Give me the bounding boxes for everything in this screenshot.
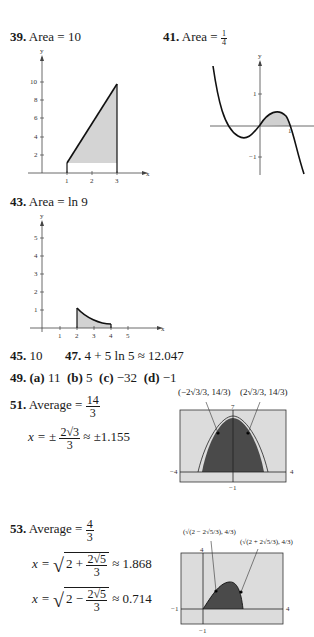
figure-41-graph: yx 1−11 bbox=[180, 60, 310, 180]
problem-51-answer: 51. Average = 143 bbox=[10, 394, 100, 419]
svg-text:5: 5 bbox=[126, 332, 130, 340]
svg-text:2: 2 bbox=[75, 332, 79, 340]
svg-text:y: y bbox=[258, 52, 262, 60]
svg-text:4: 4 bbox=[290, 468, 294, 476]
svg-text:6: 6 bbox=[34, 114, 38, 122]
figure-43-graph: yx 12345 12345 bbox=[20, 220, 150, 340]
svg-text:4: 4 bbox=[286, 605, 290, 613]
figure-51-graph: −447−1 bbox=[180, 410, 300, 490]
svg-text:5: 5 bbox=[34, 234, 38, 242]
problem-47-answer: 47. 4 + 5 ln 5 ≈ 12.047 bbox=[65, 348, 184, 364]
svg-text:4: 4 bbox=[200, 546, 204, 554]
svg-text:2: 2 bbox=[34, 151, 38, 159]
problem-51-x-values: x = ± 2√33 ≈ ±1.155 bbox=[28, 426, 130, 451]
svg-text:x: x bbox=[161, 325, 165, 333]
svg-text:1: 1 bbox=[253, 90, 257, 98]
figure-53-annotation-right: (√(2 + 2√5/3), 4/3) bbox=[240, 538, 293, 546]
svg-text:4: 4 bbox=[109, 332, 113, 340]
problem-53-answer: 53. Average = 43 bbox=[10, 518, 94, 543]
svg-text:3: 3 bbox=[115, 177, 119, 185]
svg-text:−1: −1 bbox=[171, 605, 179, 613]
figure-51-annotation-left: (−2√3/3, 14/3) bbox=[178, 387, 231, 397]
problem-43-answer: 43. Area = ln 9 bbox=[10, 194, 88, 210]
svg-text:−1: −1 bbox=[249, 153, 257, 161]
problem-45-answer: 45. 10 bbox=[10, 348, 43, 364]
svg-text:3: 3 bbox=[92, 332, 96, 340]
figure-53-graph: −144−1 bbox=[181, 553, 291, 633]
svg-text:7: 7 bbox=[231, 403, 235, 411]
svg-text:y: y bbox=[40, 212, 44, 220]
svg-text:4: 4 bbox=[34, 252, 38, 260]
problem-49-answer: 49. (a) 11 (b) 5 (c) −32 (d) −1 bbox=[10, 370, 177, 386]
problem-41-answer: 41. Area = 14 bbox=[163, 29, 227, 47]
problem-53-x2: x = √2 − 2√53 ≈ 0.714 bbox=[32, 587, 152, 613]
svg-text:1: 1 bbox=[65, 177, 69, 185]
svg-text:2: 2 bbox=[90, 177, 94, 185]
svg-text:8: 8 bbox=[34, 96, 38, 104]
svg-text:1: 1 bbox=[34, 306, 38, 314]
svg-text:x: x bbox=[146, 170, 150, 178]
figure-51-annotation-right: (2√3/3, 14/3) bbox=[240, 387, 287, 397]
figure-53-annotation-left: (√(2 − 2√5/3), 4/3) bbox=[183, 528, 236, 536]
problem-number: 39. bbox=[10, 29, 26, 44]
svg-text:10: 10 bbox=[30, 78, 38, 86]
problem-53-x1: x = √2 + 2√53 ≈ 1.868 bbox=[32, 552, 152, 578]
svg-text:4: 4 bbox=[34, 133, 38, 141]
figure-39-graph: yx 123 246810 bbox=[20, 55, 150, 185]
svg-text:1: 1 bbox=[288, 127, 292, 135]
svg-text:y: y bbox=[40, 47, 44, 55]
svg-text:2: 2 bbox=[34, 288, 38, 296]
svg-text:−1: −1 bbox=[229, 484, 237, 492]
problem-39-answer: 39. Area = 10 bbox=[10, 29, 81, 45]
svg-text:3: 3 bbox=[34, 270, 38, 278]
svg-text:−1: −1 bbox=[199, 627, 207, 635]
svg-text:1: 1 bbox=[58, 332, 62, 340]
svg-text:−4: −4 bbox=[170, 468, 178, 476]
